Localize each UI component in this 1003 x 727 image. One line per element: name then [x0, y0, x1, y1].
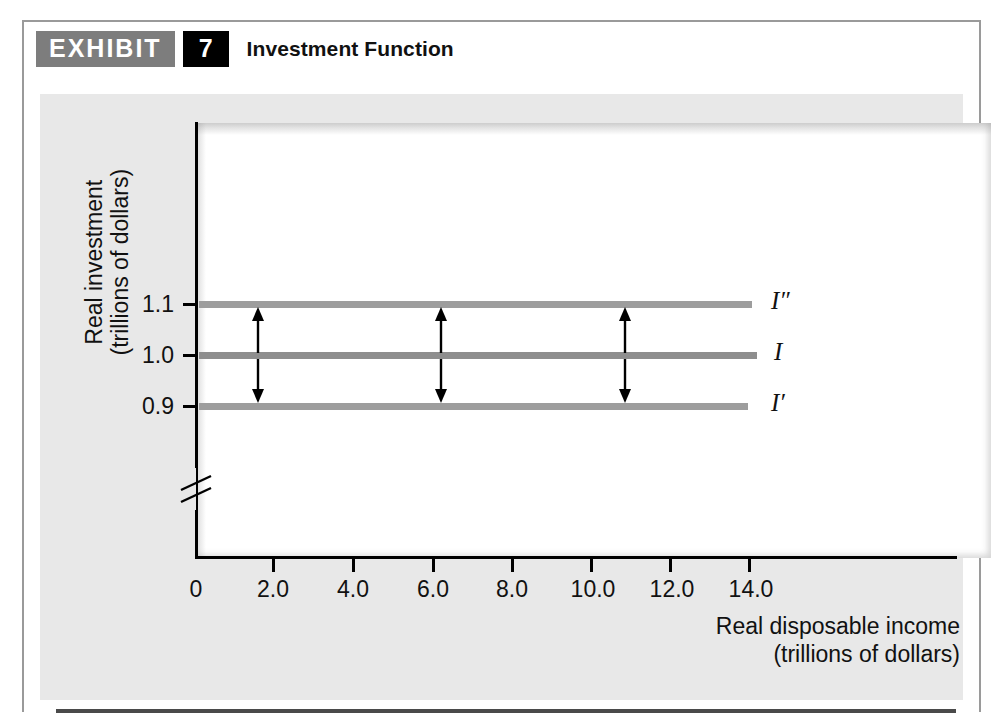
x-tick-label-14-0: 14.0 [729, 576, 774, 603]
figure-panel: 1.1 1.0 0.9 0 2.0 4.0 6.0 8.0 10.0 12.0 … [40, 94, 963, 700]
bottom-divider-rule [56, 709, 956, 713]
x-axis-title: Real disposable income (trillions of dol… [556, 612, 960, 668]
x-tick-label-6-0: 6.0 [417, 576, 449, 603]
axis-break-icon [178, 468, 216, 510]
x-tick-label-4-0: 4.0 [337, 576, 369, 603]
y-axis-title-main: Real investment [81, 97, 107, 427]
y-axis-title-units: (trillions of dollars) [107, 169, 133, 356]
arrow-down-icon [435, 359, 447, 403]
line-label-i-prime: I′ [771, 389, 785, 417]
investment-line-i [199, 352, 757, 359]
x-tick-14-0 [748, 559, 751, 572]
x-tick-12-0 [669, 559, 672, 572]
arrow-down-icon [619, 359, 631, 403]
x-tick-label-0: 0 [190, 576, 203, 603]
x-tick-label-10-0: 10.0 [571, 576, 616, 603]
x-tick-label-2-0: 2.0 [257, 576, 289, 603]
exhibit-page: EXHIBIT 7 Investment Function [0, 0, 1003, 727]
line-label-i-double-prime: I″ [771, 287, 790, 315]
x-tick-8-0 [511, 559, 514, 572]
x-tick-6-0 [432, 559, 435, 572]
investment-line-i-double-prime [199, 301, 752, 308]
shift-arrows-group-3 [613, 305, 637, 405]
arrow-up-icon [435, 307, 447, 353]
x-tick-label-12-0: 12.0 [650, 576, 695, 603]
y-axis-title: Real investment (trillions of dollars) [81, 97, 133, 427]
x-tick-10-0 [590, 559, 593, 572]
chart-layer: 1.1 1.0 0.9 0 2.0 4.0 6.0 8.0 10.0 12.0 … [0, 0, 1003, 727]
x-tick-2-0 [272, 559, 275, 572]
y-tick-label-0-9: 0.9 [128, 393, 174, 420]
x-tick-4-0 [352, 559, 355, 572]
y-tick-label-1-0: 1.0 [128, 342, 174, 369]
x-tick-label-8-0: 8.0 [496, 576, 528, 603]
investment-line-i-prime [199, 403, 748, 410]
x-axis-line [195, 556, 957, 559]
arrow-up-icon [619, 307, 631, 353]
y-tick-0-9 [183, 405, 196, 408]
x-axis-title-main: Real disposable income [556, 612, 960, 640]
x-axis-title-units: (trillions of dollars) [556, 640, 960, 668]
y-tick-1-1 [183, 303, 196, 306]
arrow-down-icon [252, 359, 264, 403]
shift-arrows-group-1 [246, 305, 270, 405]
y-tick-1-0 [183, 354, 196, 357]
arrow-up-icon [252, 307, 264, 353]
shift-arrows-group-2 [429, 305, 453, 405]
line-label-i: I [774, 338, 782, 366]
y-tick-label-1-1: 1.1 [128, 291, 174, 318]
